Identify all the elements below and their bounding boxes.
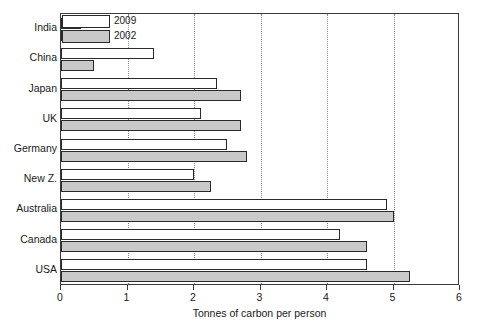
bar-canada-2002	[61, 241, 367, 252]
x-tick-label-4: 4	[314, 291, 338, 303]
chart-legend: 20092002	[62, 15, 182, 47]
bar-australia-2002	[61, 211, 394, 222]
y-axis-label-australia: Australia	[1, 203, 57, 214]
bar-uk-2009	[61, 108, 201, 119]
x-axis-title: Tonnes of carbon per person	[60, 307, 459, 319]
y-axis-label-uk: UK	[1, 113, 57, 124]
bar-new-z-2002	[61, 181, 211, 192]
bar-usa-2002	[61, 271, 410, 282]
bar-germany-2009	[61, 139, 227, 150]
legend-label-2002: 2002	[114, 29, 136, 43]
bar-new-z-2009	[61, 169, 194, 180]
x-tick-mark-0	[60, 285, 61, 290]
y-axis-label-new-z: New Z.	[1, 173, 57, 184]
x-tick-mark-1	[127, 285, 128, 290]
plot-area	[60, 13, 459, 285]
x-tick-label-0: 0	[48, 291, 72, 303]
bar-japan-2002	[61, 90, 241, 101]
bar-china-2002	[61, 60, 94, 71]
y-axis-label-china: China	[1, 52, 57, 63]
x-tick-mark-4	[326, 285, 327, 290]
bar-usa-2009	[61, 259, 367, 270]
bar-chart: IndiaChinaJapanUKGermanyNew Z.AustraliaC…	[0, 0, 480, 328]
y-axis-label-canada: Canada	[1, 234, 57, 245]
x-tick-label-3: 3	[248, 291, 272, 303]
y-axis-label-japan: Japan	[1, 83, 57, 94]
bar-japan-2009	[61, 78, 217, 89]
bar-germany-2002	[61, 151, 247, 162]
x-tick-mark-6	[459, 285, 460, 290]
x-tick-mark-5	[393, 285, 394, 290]
x-tick-label-5: 5	[381, 291, 405, 303]
bar-australia-2009	[61, 199, 387, 210]
x-tick-label-1: 1	[115, 291, 139, 303]
bar-uk-2002	[61, 120, 241, 131]
white-bar-swatch	[62, 15, 110, 28]
gridline-5	[394, 14, 395, 284]
x-tick-mark-3	[260, 285, 261, 290]
x-tick-label-2: 2	[181, 291, 205, 303]
y-axis-label-india: India	[1, 22, 57, 33]
bar-canada-2009	[61, 229, 340, 240]
y-axis-label-usa: USA	[1, 264, 57, 275]
y-axis-labels: IndiaChinaJapanUKGermanyNew Z.AustraliaC…	[0, 13, 57, 285]
x-tick-mark-2	[193, 285, 194, 290]
legend-label-2009: 2009	[114, 14, 136, 28]
y-axis-label-germany: Germany	[1, 143, 57, 154]
x-tick-label-6: 6	[447, 291, 471, 303]
bar-china-2009	[61, 48, 154, 59]
gray-bar-swatch	[62, 30, 110, 43]
